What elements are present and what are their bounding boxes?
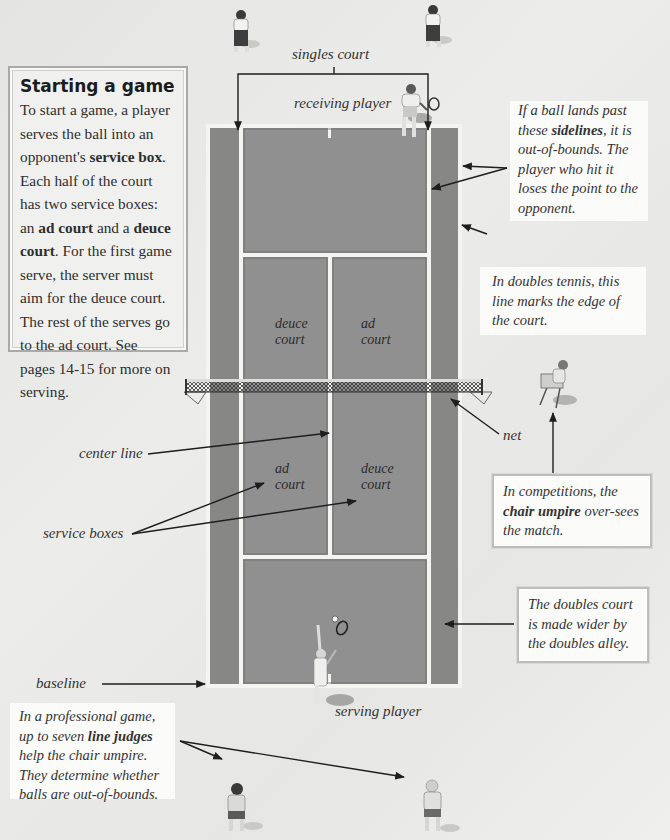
center-mark-top xyxy=(328,128,331,138)
term-line-judges: line judges xyxy=(88,728,153,744)
doubles-edge-arrow xyxy=(462,225,487,234)
chair-umpire xyxy=(540,360,577,408)
serving-player-label: serving player xyxy=(335,703,421,720)
court-label-bottom-left: adcourt xyxy=(275,461,305,493)
court-label-bottom-right: deucecourt xyxy=(361,461,394,493)
term-ad-court: ad court xyxy=(38,219,93,236)
sidelines-arrow-1 xyxy=(463,166,507,168)
line-judge-top-right xyxy=(426,5,452,47)
court-label-top-right: adcourt xyxy=(361,316,391,348)
service-line-top xyxy=(243,253,427,257)
info-box-text: To start a game, a player serves the bal… xyxy=(20,98,176,404)
sidelines-callout: If a ball lands past these sidelines, it… xyxy=(510,101,648,221)
term-service-box: service box xyxy=(89,148,162,165)
net-label: net xyxy=(503,427,521,444)
line-judge-bottom-right xyxy=(424,780,460,832)
term-chair-umpire: chair umpire xyxy=(503,503,581,519)
line-judges-callout: In a professional game, up to seven line… xyxy=(10,703,175,799)
court-label-top-left: deucecourt xyxy=(275,316,308,348)
singles-court-label: singles court xyxy=(292,46,369,63)
center-mark-bottom xyxy=(328,674,331,684)
term-sidelines: sidelines xyxy=(551,122,603,138)
center-line-label: center line xyxy=(79,445,143,462)
baseline-label: baseline xyxy=(36,675,86,692)
service-line-bottom xyxy=(243,555,427,559)
tennis-ball xyxy=(332,616,338,622)
receiving-player-label: receiving player xyxy=(294,95,391,112)
center-service-line xyxy=(328,257,332,555)
singles-sideline-right xyxy=(427,128,431,684)
line-judge-top-left xyxy=(234,10,260,52)
singles-sideline-left xyxy=(239,128,243,684)
line-judges-arrow-2 xyxy=(180,741,404,777)
doubles-edge-callout: In doubles tennis, this line marks the e… xyxy=(480,267,646,335)
doubles-alley-callout: The doubles court is made wider by the d… xyxy=(517,587,649,663)
info-box-title: Starting a game xyxy=(20,75,176,97)
line-judge-bottom-left xyxy=(228,783,263,831)
starting-a-game-info-box: Starting a game To start a game, a playe… xyxy=(8,66,188,352)
service-boxes-label: service boxes xyxy=(43,525,123,542)
chair-umpire-callout: In competitions, the chair umpire over-s… xyxy=(492,474,652,548)
singles-court-surface xyxy=(243,128,427,684)
tennis-court xyxy=(206,124,462,688)
